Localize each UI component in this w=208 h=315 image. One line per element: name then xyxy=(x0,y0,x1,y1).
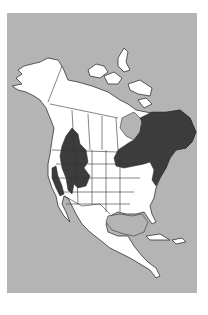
north-america-landmass xyxy=(12,58,196,278)
cuba xyxy=(146,234,170,240)
gulf-of-mexico xyxy=(106,214,148,236)
arctic-island xyxy=(118,48,130,72)
arctic-island xyxy=(104,72,122,84)
hispaniola xyxy=(172,238,186,244)
range-map xyxy=(0,0,208,315)
arctic-island xyxy=(128,80,152,96)
arctic-island xyxy=(138,98,152,108)
